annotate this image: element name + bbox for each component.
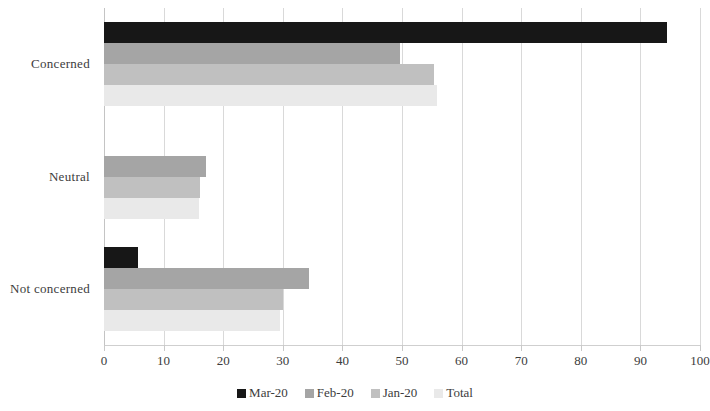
bar-group xyxy=(104,247,700,331)
bar-mar-20-concerned xyxy=(104,22,667,43)
bar-row xyxy=(104,156,700,177)
bar-jan-20-not-concerned xyxy=(104,289,283,310)
x-tick-label-10: 10 xyxy=(157,352,170,370)
legend-item-total[interactable]: Total xyxy=(434,386,473,400)
bar-row xyxy=(104,198,700,219)
bar-row xyxy=(104,64,700,85)
x-tick-90 xyxy=(640,345,641,351)
bar-jan-20-neutral xyxy=(104,177,200,198)
legend-item-mar-20[interactable]: Mar-20 xyxy=(237,386,288,400)
bar-row xyxy=(104,310,700,331)
bar-row xyxy=(104,85,700,106)
x-tick-label-90: 90 xyxy=(634,352,647,370)
x-tick-label-50: 50 xyxy=(396,352,409,370)
legend-label: Feb-20 xyxy=(317,386,354,400)
category-label-concerned: Concerned xyxy=(31,56,90,71)
x-tick-30 xyxy=(283,345,284,351)
x-tick-10 xyxy=(164,345,165,351)
legend-swatch-icon xyxy=(237,389,246,398)
bar-jan-20-concerned xyxy=(104,64,434,85)
x-tick-0 xyxy=(104,345,105,351)
bar-row xyxy=(104,289,700,310)
x-tick-80 xyxy=(581,345,582,351)
bar-feb-20-neutral xyxy=(104,156,206,177)
bar-row xyxy=(104,177,700,198)
bar-row xyxy=(104,247,700,268)
bar-group xyxy=(104,135,700,219)
x-tick-label-70: 70 xyxy=(515,352,528,370)
legend-swatch-icon xyxy=(371,389,380,398)
category-axis-labels: ConcernedNeutralNot concerned xyxy=(0,8,98,345)
bar-row xyxy=(104,43,700,64)
x-tick-70 xyxy=(521,345,522,351)
legend-swatch-icon xyxy=(434,389,443,398)
legend-item-feb-20[interactable]: Feb-20 xyxy=(305,386,354,400)
x-tick-20 xyxy=(223,345,224,351)
category-label-not-concerned: Not concerned xyxy=(10,281,90,296)
category-label-neutral: Neutral xyxy=(49,169,90,184)
x-tick-40 xyxy=(342,345,343,351)
x-tick-label-40: 40 xyxy=(336,352,349,370)
x-tick-label-60: 60 xyxy=(455,352,468,370)
plot-area xyxy=(104,8,700,345)
bar-row xyxy=(104,22,700,43)
x-axis-tick-labels: 0102030405060708090100 xyxy=(104,352,700,372)
bar-feb-20-concerned xyxy=(104,43,400,64)
bar-group xyxy=(104,22,700,106)
legend-label: Mar-20 xyxy=(249,386,288,400)
x-tick-label-20: 20 xyxy=(217,352,230,370)
x-tick-label-30: 30 xyxy=(276,352,289,370)
gridline-100 xyxy=(700,8,701,345)
bar-chart: ConcernedNeutralNot concerned 0102030405… xyxy=(0,0,710,411)
bar-total-not-concerned xyxy=(104,310,280,331)
legend-item-jan-20[interactable]: Jan-20 xyxy=(371,386,418,400)
bar-mar-20-not-concerned xyxy=(104,247,138,268)
bar-groups xyxy=(104,8,700,345)
bar-total-neutral xyxy=(104,198,199,219)
x-tick-label-80: 80 xyxy=(574,352,587,370)
bar-row xyxy=(104,135,700,156)
bar-feb-20-not-concerned xyxy=(104,268,309,289)
bar-row xyxy=(104,268,700,289)
legend-label: Total xyxy=(446,386,473,400)
legend-swatch-icon xyxy=(305,389,314,398)
x-tick-label-0: 0 xyxy=(101,352,108,370)
bar-total-concerned xyxy=(104,85,437,106)
legend-label: Jan-20 xyxy=(383,386,418,400)
x-tick-label-100: 100 xyxy=(690,352,710,370)
x-axis-ticks xyxy=(104,345,700,351)
x-tick-50 xyxy=(402,345,403,351)
chart-legend: Mar-20Feb-20Jan-20Total xyxy=(0,386,710,400)
x-tick-60 xyxy=(462,345,463,351)
x-tick-100 xyxy=(700,345,701,351)
